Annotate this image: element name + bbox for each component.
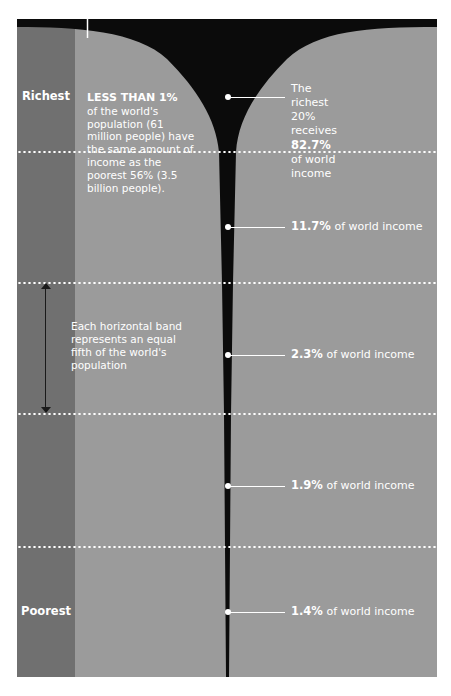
band-note: Each horizontal band represents an equal… — [71, 320, 191, 372]
marker-dot — [225, 94, 231, 100]
marker-dot — [225, 352, 231, 358]
callout-richest-text: The richest 20% receives 82.7% of world … — [291, 82, 337, 181]
callout-value: 11.7% — [291, 219, 331, 233]
top-note-pointer — [83, 19, 93, 40]
band-separator — [17, 282, 437, 284]
marker-dot — [225, 483, 231, 489]
top-note: LESS THAN 1% of the world's population (… — [87, 92, 197, 194]
marker-dot — [225, 609, 231, 615]
top-note-head: LESS THAN 1% — [87, 92, 197, 105]
callout-value: 1.9% — [291, 478, 323, 492]
marker-dot — [225, 224, 231, 230]
richest-label: Richest — [17, 89, 75, 103]
income-distribution-chart: Richest Poorest LESS THAN 1% of the worl… — [17, 19, 437, 677]
top-band — [17, 19, 437, 27]
callout-value: 82.7% — [291, 138, 331, 152]
band-separator — [17, 413, 437, 415]
arrow-down-icon — [41, 407, 51, 413]
callout-value: 1.4% — [291, 604, 323, 618]
band-separator — [17, 546, 437, 548]
poorest-label: Poorest — [17, 604, 75, 618]
top-note-body: of the world's population (61 million pe… — [87, 105, 197, 195]
band-separator — [17, 151, 437, 153]
band-height-arrow — [45, 287, 46, 409]
callout-value: 2.3% — [291, 347, 323, 361]
